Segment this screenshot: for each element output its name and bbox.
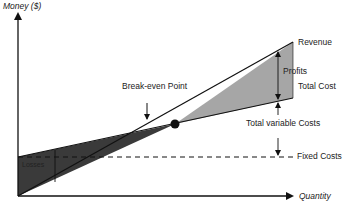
- break-even-chart: [0, 0, 345, 207]
- break-even-label: Break-even Point: [122, 82, 187, 91]
- loss-region: [18, 124, 175, 196]
- profits-label: Profits: [283, 67, 307, 76]
- fixed-costs-label: Fixed Costs: [297, 152, 342, 161]
- x-axis-label: Quantity: [299, 192, 331, 201]
- break-even-point: [171, 120, 180, 129]
- total-cost-label: Total Cost: [298, 82, 336, 91]
- profit-region: [175, 42, 293, 124]
- revenue-label: Revenue: [298, 38, 332, 47]
- y-axis-label: Money ($): [3, 2, 41, 11]
- total-variable-costs-label: Total variable Costs: [246, 119, 320, 128]
- losses-label: Losses: [22, 161, 44, 168]
